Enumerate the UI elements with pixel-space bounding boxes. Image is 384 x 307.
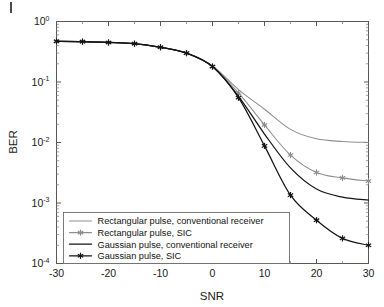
x-tick-label: 0 (210, 267, 216, 279)
x-tick-label: -30 (49, 267, 64, 279)
x-tick-label: 20 (311, 267, 323, 279)
y-tick-label: 10-1 (32, 75, 50, 88)
x-tick-label: -10 (153, 267, 168, 279)
legend-label: Gaussian pulse, conventional receiver (98, 240, 253, 250)
figure-canvas: -30-20-100102030 10010-110-210-310-4 Rec… (0, 0, 384, 307)
y-tick-label: 10-2 (32, 136, 50, 149)
legend-label: Rectangular pulse, conventional receiver (98, 216, 264, 226)
series-0 (57, 41, 369, 142)
x-tick-label: 30 (363, 267, 375, 279)
x-tick-label: -20 (101, 267, 116, 279)
y-axis-tick-labels: 10010-110-210-310-4 (32, 15, 50, 270)
y-axis-title: BER (7, 130, 19, 154)
series-line (57, 41, 369, 181)
ber-vs-snr-chart: -30-20-100102030 10010-110-210-310-4 Rec… (0, 0, 384, 307)
x-axis-tick-labels: -30-20-100102030 (49, 267, 375, 279)
series-line (57, 41, 369, 142)
series-1 (54, 38, 371, 184)
x-axis-title: SNR (200, 290, 224, 302)
y-tick-label: 10-4 (32, 257, 50, 270)
x-tick-label: 10 (259, 267, 271, 279)
legend-label: Gaussian pulse, SIC (98, 251, 182, 261)
page-edge-artifact (10, 2, 12, 13)
y-tick-label: 100 (34, 15, 50, 28)
data-point-marker (340, 235, 345, 241)
y-tick-label: 10-3 (32, 196, 50, 209)
data-point-marker (262, 143, 267, 149)
legend-label: Rectangular pulse, SIC (98, 228, 193, 238)
data-point-marker (314, 169, 319, 175)
chart-legend: Rectangular pulse, conventional receiver… (64, 213, 290, 264)
